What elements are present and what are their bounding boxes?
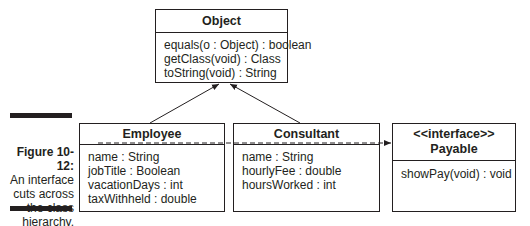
- relationship-lines: [0, 0, 530, 226]
- inheritance-arrow-employee: [150, 84, 219, 123]
- inheritance-arrow-consultant: [230, 84, 300, 123]
